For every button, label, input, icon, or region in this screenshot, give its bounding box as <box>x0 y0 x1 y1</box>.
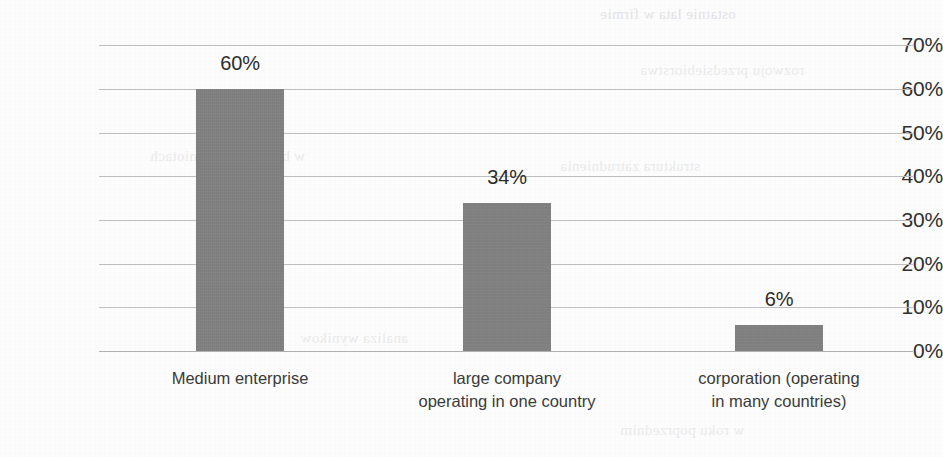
gridline <box>99 45 913 46</box>
bar[interactable] <box>735 325 823 351</box>
x-axis-category-line: corporation (operating <box>667 367 891 390</box>
x-axis-category-line: large company <box>395 367 619 390</box>
x-axis-category-label: Medium enterprise <box>130 367 350 390</box>
bar[interactable] <box>196 89 284 351</box>
axis-baseline <box>99 351 913 352</box>
bar-value-label: 6% <box>735 288 823 311</box>
x-axis-category-line: Medium enterprise <box>130 367 350 390</box>
x-axis-category-label: corporation (operating in many countries… <box>667 367 891 414</box>
x-axis-category-label: large company operating in one country <box>395 367 619 414</box>
bar[interactable] <box>463 203 551 351</box>
bar-value-label: 34% <box>463 166 551 189</box>
x-axis-category-line: in many countries) <box>667 390 891 413</box>
x-axis-category-line: operating in one country <box>395 390 619 413</box>
bar-value-label: 60% <box>196 52 284 75</box>
bar-chart: 70% 60% 50% 40% 30% 20% 10% 0% 60% 34% 6… <box>0 0 943 457</box>
